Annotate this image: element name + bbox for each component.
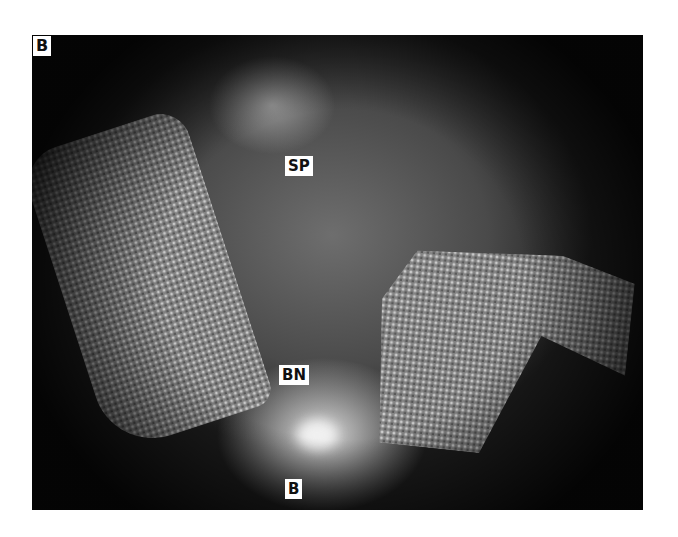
panel-label: B (33, 36, 51, 56)
annotation-b: B (285, 479, 302, 499)
vignette (32, 35, 643, 510)
endoscopic-photo (32, 35, 643, 510)
annotation-sp: SP (285, 156, 313, 176)
annotation-bn: BN (279, 365, 309, 385)
